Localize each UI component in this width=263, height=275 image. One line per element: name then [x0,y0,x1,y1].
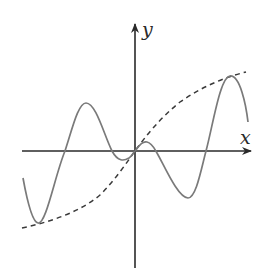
y-axis-label: y [141,18,153,40]
dashed-envelope-curve [22,72,246,228]
x-axis-label: x [240,126,251,148]
function-graph: x y [0,0,263,275]
